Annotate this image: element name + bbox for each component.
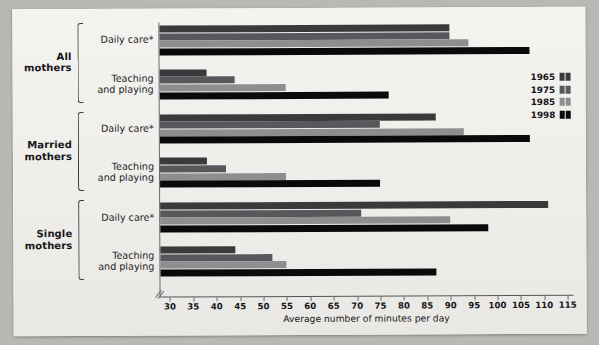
x-axis-tick-label: 115: [555, 300, 581, 310]
legend-swatch-group: [559, 73, 571, 81]
bar-1998-daily-care: [159, 47, 529, 56]
category-label-line2: and playing: [34, 261, 154, 273]
axis-break-icon: //: [154, 287, 163, 301]
x-axis-tick-label: 50: [251, 301, 277, 311]
legend-swatch: [566, 73, 571, 81]
x-axis-tick-label: 110: [531, 300, 557, 310]
bar-1998-teaching: [160, 91, 389, 99]
group-title-line2: mothers: [0, 151, 72, 163]
group-title-line2: mothers: [0, 62, 72, 74]
legend-swatch-group: [559, 86, 571, 94]
legend-item-1965: 1965: [483, 71, 571, 84]
group-brace: [78, 112, 84, 192]
legend-swatch: [566, 86, 571, 94]
legend-label: 1985: [531, 97, 556, 107]
x-axis-tick-label: 105: [508, 300, 534, 310]
group-title-line2: mothers: [0, 239, 72, 251]
category-label: Teachingand playing: [34, 250, 154, 273]
category-label-line2: and playing: [34, 83, 154, 95]
bar-1975-teaching: [160, 77, 235, 84]
legend-swatch-group: [559, 111, 571, 119]
x-axis-tick-label: 90: [438, 300, 464, 310]
x-axis-tick-label: 85: [414, 300, 440, 310]
chart-plot-area: Daily care*Teachingand playingAllmothers…: [12, 7, 586, 336]
bar-1985-teaching: [160, 84, 286, 92]
legend-swatch-group: [559, 98, 571, 106]
category-label: Daily care*: [34, 211, 154, 223]
legend-swatch: [559, 98, 564, 106]
x-axis-tick-label: 75: [368, 301, 394, 311]
x-axis-tick-label: 70: [344, 301, 370, 311]
group-title-line1: Married: [0, 139, 72, 151]
category-label-line1: Daily care*: [34, 211, 154, 223]
category-label-line2: and playing: [34, 172, 154, 184]
bar-1998-teaching: [160, 268, 436, 276]
category-label-line1: Teaching: [34, 161, 154, 173]
bar-1975-teaching: [160, 254, 272, 261]
x-axis-tick-label: 55: [274, 301, 300, 311]
bar-1965-daily-care: [160, 201, 548, 210]
x-axis-tick-label: 60: [297, 301, 323, 311]
bar-1975-daily-care: [160, 210, 361, 218]
legend-swatch: [559, 86, 564, 94]
group-title-line1: All: [0, 51, 72, 63]
group-brace: [77, 23, 83, 103]
legend-label: 1965: [531, 72, 556, 82]
group-brace: [78, 200, 84, 280]
x-axis-tick-label: 35: [180, 301, 206, 311]
group-title-line1: Single: [0, 228, 72, 240]
legend-item-1975: 1975: [483, 83, 571, 96]
screenshot-root: Daily care*Teachingand playingAllmothers…: [0, 0, 599, 345]
bar-1985-teaching: [160, 261, 286, 269]
category-label-line1: Daily care*: [33, 34, 153, 46]
x-axis-tick-label: 30: [157, 302, 183, 312]
legend-item-1998: 1998: [483, 108, 571, 121]
bar-1998-teaching: [160, 180, 380, 188]
x-axis-tick-label: 100: [485, 300, 511, 310]
category-label-line1: Teaching: [34, 250, 154, 262]
group-title: Allmothers: [0, 51, 72, 74]
legend-swatch: [559, 111, 564, 119]
category-label-line1: Teaching: [34, 72, 154, 84]
legend-swatch: [559, 73, 564, 81]
bar-1998-daily-care: [160, 135, 530, 144]
group-title: Singlemothers: [0, 228, 72, 251]
bar-1965-daily-care: [160, 113, 436, 121]
legend-swatch: [566, 98, 571, 106]
chart-legend: 1965197519851998: [483, 71, 571, 121]
bar-1965-teaching: [160, 246, 235, 253]
group-title: Marriedmothers: [0, 139, 72, 162]
x-axis-tick-label: 95: [461, 300, 487, 310]
bar-1965-teaching: [160, 158, 207, 165]
legend-label: 1998: [531, 110, 556, 120]
category-label: Teachingand playing: [34, 72, 154, 95]
bar-1998-daily-care: [160, 224, 488, 232]
category-label: Teachingand playing: [34, 161, 154, 184]
bar-1975-teaching: [160, 165, 226, 172]
x-axis-tick-label: 40: [204, 301, 230, 311]
legend-label: 1975: [531, 85, 556, 95]
legend-swatch: [566, 111, 571, 119]
category-label: Daily care*: [33, 34, 153, 46]
legend-item-1985: 1985: [483, 96, 571, 109]
chart-paper: Daily care*Teachingand playingAllmothers…: [12, 7, 586, 336]
x-axis-line: [160, 295, 574, 298]
x-axis-tick-label: 80: [391, 300, 417, 310]
x-axis-tick-label: 45: [227, 301, 253, 311]
bar-1985-teaching: [160, 173, 286, 181]
category-label: Daily care*: [34, 123, 154, 135]
x-axis-title: Average number of minutes per day: [161, 312, 573, 325]
x-axis-tick-label: 65: [321, 301, 347, 311]
bar-1965-teaching: [160, 69, 207, 76]
chart-background: Daily care*Teachingand playingAllmothers…: [12, 7, 586, 336]
category-label-line1: Daily care*: [34, 123, 154, 135]
